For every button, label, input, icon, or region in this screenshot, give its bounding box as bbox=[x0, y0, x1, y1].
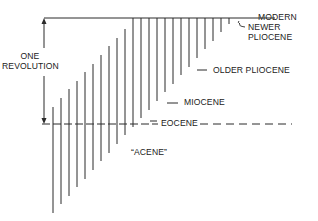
label-one-revolution: ONE REVOLUTION bbox=[2, 52, 58, 71]
arrow-up-icon bbox=[42, 18, 47, 24]
label-eocene: EOCENE bbox=[160, 119, 199, 129]
label-revolution: REVOLUTION bbox=[2, 62, 58, 72]
label-acene: “ACENE” bbox=[131, 148, 167, 158]
label-miocene: MIOCENE bbox=[184, 98, 225, 108]
vertical-line-group bbox=[53, 18, 229, 213]
label-newer-pliocene: NEWER PLIOCENE bbox=[248, 23, 292, 42]
arrow-down-icon bbox=[42, 118, 47, 124]
revolution-diagram: ONE REVOLUTION MODERN NEWER PLIOCENE OLD… bbox=[0, 0, 318, 221]
newer-pliocene-bracket bbox=[238, 21, 245, 27]
label-older-pliocene: OLDER PLIOCENE bbox=[213, 66, 290, 76]
label-pliocene: PLIOCENE bbox=[248, 33, 292, 43]
